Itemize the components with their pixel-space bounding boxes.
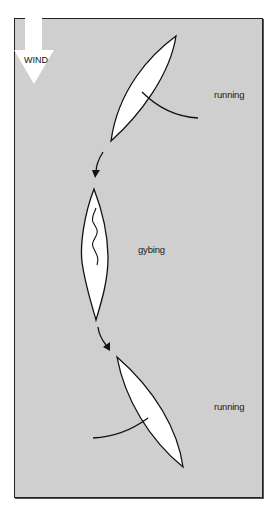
boat-running-bottom: [93, 357, 183, 467]
boat-running-top: [111, 36, 198, 141]
stage-label-running-top: running: [214, 89, 244, 100]
boat-gybing: [82, 189, 109, 320]
course-arrow-1-icon: [92, 152, 103, 178]
gybing-diagram: [0, 0, 277, 515]
wind-arrow-icon: [14, 0, 54, 84]
boom-bottom: [93, 418, 148, 438]
course-arrow-2-icon: [98, 327, 110, 351]
stage-label-gybing: gybing: [138, 244, 165, 255]
wind-label: WIND: [24, 55, 48, 65]
stage-label-running-bottom: running: [214, 401, 244, 412]
